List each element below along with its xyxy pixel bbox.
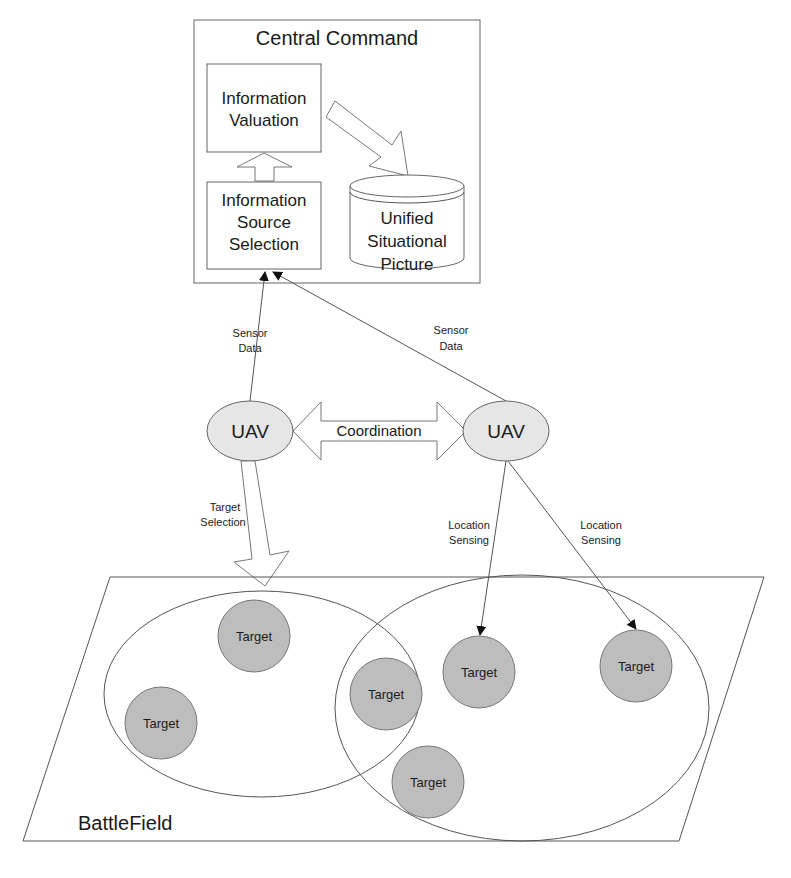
location-sensing-arrow-1: [480, 461, 506, 635]
uav-left: UAV: [207, 401, 293, 461]
sensor-data-left-line-2: Data: [238, 342, 262, 354]
information-valuation-line-2: Valuation: [229, 111, 299, 130]
location-sensing-1-line-1: Location: [448, 519, 490, 531]
target-3: Target: [350, 658, 422, 730]
target-1: Target: [218, 600, 290, 672]
sensor-data-left-line-1: Sensor: [233, 327, 268, 339]
svg-text:Target: Target: [410, 775, 447, 790]
svg-text:Target: Target: [618, 659, 655, 674]
battlefield-group: Target Target Target Target Target Targe…: [23, 575, 764, 841]
target-2: Target: [125, 687, 197, 759]
diagram-canvas: Central Command Information Valuation In…: [0, 0, 791, 878]
unified-situational-picture-line-3: Picture: [381, 255, 434, 274]
unified-situational-picture-line-2: Situational: [367, 232, 446, 251]
target-selection-line-2: Selection: [200, 516, 245, 528]
target-6: Target: [392, 746, 464, 818]
location-sensing-2-line-2: Sensing: [581, 534, 621, 546]
information-source-selection-line-3: Selection: [229, 235, 299, 254]
location-sensing-1-line-2: Sensing: [449, 534, 489, 546]
unified-situational-picture-line-1: Unified: [381, 209, 434, 228]
battlefield-label: BattleField: [78, 812, 173, 834]
target-5: Target: [600, 630, 672, 702]
coordination-label: Coordination: [336, 422, 421, 439]
sensor-data-right-line-1: Sensor: [434, 324, 469, 336]
uav-right: UAV: [463, 401, 549, 461]
svg-text:Target: Target: [236, 629, 273, 644]
information-valuation-line-1: Information: [221, 89, 306, 108]
target-4: Target: [443, 636, 515, 708]
unified-situational-picture-db: Unified Situational Picture: [350, 175, 464, 274]
svg-text:Target: Target: [368, 687, 405, 702]
svg-text:Target: Target: [143, 716, 180, 731]
location-sensing-2-line-1: Location: [580, 519, 622, 531]
sensor-data-arrow-right: [273, 272, 506, 401]
information-source-selection-line-1: Information: [221, 191, 306, 210]
uav-right-label: UAV: [487, 421, 525, 442]
sensor-data-right-line-2: Data: [439, 340, 463, 352]
uav-left-label: UAV: [231, 421, 269, 442]
svg-text:Target: Target: [461, 665, 498, 680]
central-command-title: Central Command: [256, 27, 418, 49]
information-source-selection-line-2: Source: [237, 213, 291, 232]
information-valuation-box: [207, 64, 321, 152]
target-selection-line-1: Target: [210, 501, 241, 513]
central-command-group: Central Command Information Valuation In…: [194, 20, 480, 283]
